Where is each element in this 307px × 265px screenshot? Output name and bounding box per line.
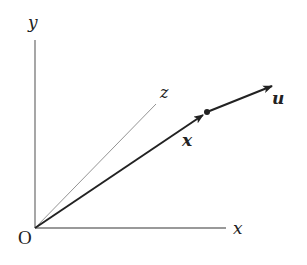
- position-vector-label: x: [181, 130, 193, 150]
- z-axis-label: z: [159, 83, 169, 102]
- origin-label: O: [18, 227, 32, 248]
- diagram-canvas: y O x z x u: [0, 0, 307, 265]
- direction-vector-label: u: [272, 88, 284, 108]
- direction-vector-u: [207, 86, 272, 112]
- z-axis: [35, 104, 156, 228]
- x-axis-label: x: [233, 218, 243, 238]
- position-vector-x: [35, 115, 203, 228]
- y-axis-label: y: [27, 12, 38, 32]
